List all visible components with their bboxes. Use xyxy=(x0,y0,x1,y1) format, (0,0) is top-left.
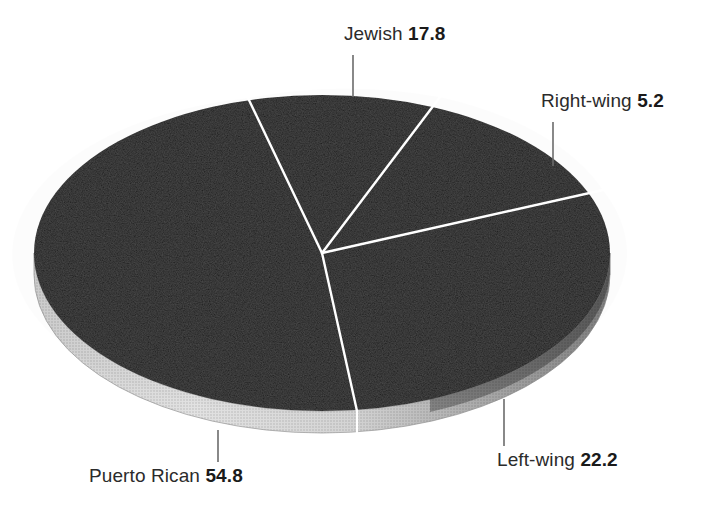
pie-chart-canvas xyxy=(0,0,703,515)
slice-label-left-wing: Left-wing 22.2 xyxy=(497,450,618,469)
slice-label-right-wing-value: 5.2 xyxy=(637,90,664,111)
pie-slices xyxy=(12,88,627,413)
slice-label-puerto-rican-name: Puerto Rican xyxy=(89,465,200,486)
slice-label-left-wing-name: Left-wing xyxy=(497,449,575,470)
slice-label-right-wing-name: Right-wing xyxy=(541,90,632,111)
slice-label-right-wing: Right-wing 5.2 xyxy=(541,91,664,110)
slice-label-jewish-name: Jewish xyxy=(344,23,403,44)
pie-top-face xyxy=(12,88,627,413)
slice-label-left-wing-value: 22.2 xyxy=(580,449,617,470)
slice-label-jewish-value: 17.8 xyxy=(408,23,445,44)
slice-label-puerto-rican: Puerto Rican 54.8 xyxy=(89,466,243,485)
slice-label-jewish: Jewish 17.8 xyxy=(344,24,445,43)
slice-label-puerto-rican-value: 54.8 xyxy=(205,465,242,486)
pie-chart-figure: Jewish 17.8 Right-wing 5.2 Left-wing 22.… xyxy=(0,0,703,515)
